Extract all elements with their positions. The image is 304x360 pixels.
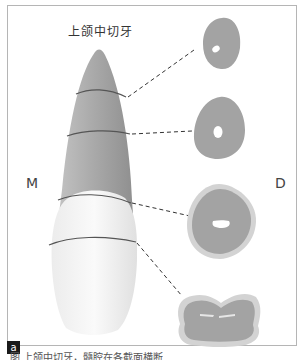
figure-caption: 图 上颌中切牙，髓腔在各截面横断 [10, 352, 163, 360]
cross-section-3 [187, 184, 256, 259]
leader-line-4 [137, 243, 182, 296]
leader-line-1 [128, 50, 194, 97]
tooth-diagram [0, 0, 304, 360]
leader-line-3 [132, 203, 190, 216]
cross-section-4 [178, 294, 260, 347]
tooth-crown [52, 191, 138, 336]
leader-line-2 [132, 131, 192, 134]
cross-section-2 [194, 97, 245, 159]
cross-section-1 [203, 18, 240, 69]
